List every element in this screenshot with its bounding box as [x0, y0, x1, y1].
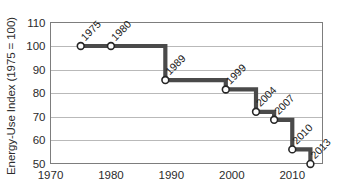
data-point-label: 1975 [78, 18, 103, 43]
data-point-marker [108, 43, 115, 50]
x-tick-label: 1980 [98, 169, 124, 181]
chart-figure: Energy-Use Index (1975 = 100) 5060708090… [0, 0, 345, 192]
y-tick-label: 60 [33, 134, 46, 146]
x-tick-label: 2000 [219, 169, 245, 181]
y-axis-tick-labels: 5060708090100110 [26, 17, 45, 170]
data-point-marker [162, 77, 169, 84]
data-point-marker [77, 43, 84, 50]
data-point-label: 1980 [108, 18, 133, 43]
y-tick-label: 100 [26, 40, 45, 52]
data-point-marker [253, 108, 260, 115]
y-tick-label: 80 [33, 87, 46, 99]
x-tick-label: 1970 [38, 169, 64, 181]
x-tick-label: 1990 [159, 169, 185, 181]
data-point-label: 2013 [308, 136, 333, 161]
data-point-marker [307, 161, 314, 168]
data-point-marker [289, 146, 296, 153]
y-tick-label: 70 [33, 111, 46, 123]
x-tick-label: 2010 [279, 169, 305, 181]
data-point-label: 1999 [223, 61, 248, 86]
x-axis-tick-labels: 19701980199020002010 [38, 169, 305, 181]
chart-plot-area: 5060708090100110 19701980199020002010 19… [0, 0, 345, 192]
y-tick-label: 90 [33, 64, 46, 76]
data-point-label: 2007 [272, 92, 297, 117]
data-point-marker [222, 86, 229, 93]
data-point-marker [271, 116, 278, 123]
data-point-labels: 19751980198919992004200720102013 [78, 18, 333, 161]
y-tick-label: 110 [27, 17, 45, 29]
